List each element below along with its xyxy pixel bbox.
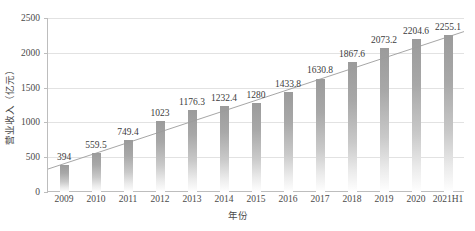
y-axis-tick xyxy=(44,192,48,193)
bar-chart: 营业收入（亿元） 05001000150020002500 394559.574… xyxy=(0,0,475,231)
y-axis-tick-label: 2000 xyxy=(6,48,40,58)
y-axis-tick-label: 1500 xyxy=(6,83,40,93)
x-axis-title-label: 年份 xyxy=(228,211,248,221)
bar-data-label: 394 xyxy=(42,152,86,162)
y-axis-tick-label: 1000 xyxy=(6,117,40,127)
x-axis-title: 年份 xyxy=(0,208,475,222)
bar-data-label: 1867.6 xyxy=(330,49,374,59)
x-axis-tick-label: 2021H1 xyxy=(426,194,470,205)
bar-data-label: 1023 xyxy=(138,108,182,118)
bar-data-label: 1280 xyxy=(234,90,278,100)
bar-data-label: 1433.8 xyxy=(266,79,310,89)
bar-data-label: 1630.8 xyxy=(298,65,342,75)
y-axis-tick-label: 0 xyxy=(6,187,40,197)
bar-data-label: 2073.2 xyxy=(362,35,406,45)
bar-data-label: 2255.1 xyxy=(426,22,470,32)
y-axis-tick-label: 500 xyxy=(6,152,40,162)
y-axis-tick-label: 2500 xyxy=(6,13,40,23)
bar-data-label: 749.4 xyxy=(106,127,150,137)
bar-data-label: 559.5 xyxy=(74,140,118,150)
